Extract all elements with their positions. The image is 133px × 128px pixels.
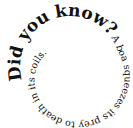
spiral-text: Did you know?A boa squeezes its prey to …: [4, 0, 133, 128]
headline-text: Did you know?: [4, 0, 122, 82]
spiral-text-graphic: Did you know?A boa squeezes its prey to …: [0, 0, 133, 128]
fact-text: A boa squeezes its prey to death in its …: [25, 32, 133, 128]
